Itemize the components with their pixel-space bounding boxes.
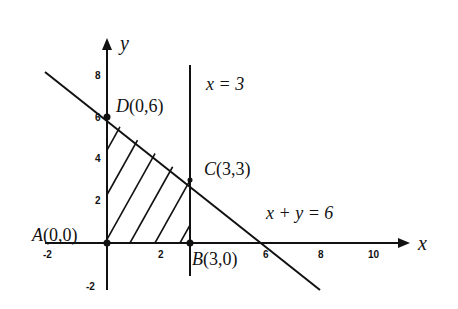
line-x-plus-y-label: x + y = 6	[265, 203, 333, 223]
point-C-label: C(3,3)	[204, 159, 251, 180]
point-D	[104, 114, 111, 121]
x-tick: 6	[263, 249, 269, 260]
x-tick: 8	[318, 249, 324, 260]
x-tick: 2	[158, 249, 164, 260]
y-tick: -2	[86, 281, 95, 292]
x-tick: 10	[368, 249, 380, 260]
y-tick: 2	[95, 195, 101, 206]
x-axis-label: x	[417, 232, 427, 254]
point-B	[187, 240, 194, 247]
x-axis-arrow-icon	[398, 238, 410, 248]
y-tick: 4	[95, 153, 101, 164]
point-D-label: D(0,6)	[115, 96, 164, 117]
y-tick: 8	[95, 70, 101, 81]
y-axis-arrow-icon	[102, 38, 112, 50]
lp-region-diagram: x y -2 2 6 8 10 8 6 4 2 -2 x = 3 x + y =…	[0, 0, 458, 309]
y-axis-label: y	[118, 32, 129, 55]
x-tick: -2	[43, 249, 52, 260]
line-x-plus-y-equals-6	[45, 72, 320, 290]
point-A	[104, 240, 111, 247]
point-C	[188, 178, 193, 183]
point-B-label: B(3,0)	[192, 249, 238, 270]
point-A-label: A(0,0)	[31, 225, 78, 246]
line-x-equals-3-label: x = 3	[205, 74, 244, 94]
